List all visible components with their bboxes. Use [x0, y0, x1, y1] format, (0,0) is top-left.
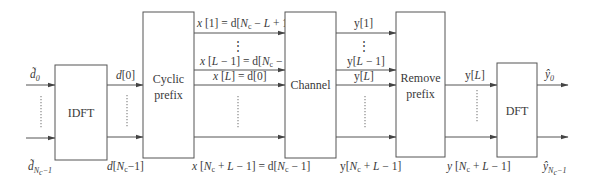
channel-block-label: Channel [291, 78, 332, 92]
ch-out-bottom-label: y[Nc + L − 1] [340, 160, 401, 174]
ch-ellipsis-top: ⋮ [358, 40, 370, 52]
remove-prefix-label-line2: prefix [406, 87, 435, 101]
cyclic-prefix-label-line1: Cyclic [153, 72, 184, 86]
cp-out-2-label: x [L − 1] = d[Nc − 1] [199, 55, 295, 69]
remove-prefix-label-line1: Remove [401, 71, 441, 85]
ch-out-3-label: y[L] [354, 70, 374, 83]
idft-block-label: IDFT [68, 106, 95, 120]
rp-out-bottom-label: y [Nc + L − 1] [446, 160, 511, 174]
rp-out-top-label: y[L] [465, 69, 485, 82]
cyclic-prefix-label-line2: prefix [154, 88, 183, 102]
cp-out-1-label: x [1] = d[Nc − L + 1] [196, 17, 292, 31]
input-bottom-label: d̃Nc−1 [28, 159, 52, 177]
dft-block-label: DFT [506, 104, 529, 118]
ofdm-block-diagram: d̃0 d̃Nc−1 IDFT d[0] d[Nc−1] Cyclic pref… [0, 0, 593, 182]
cp-ellipsis-top: ⋮ [232, 40, 244, 52]
output-top-label: ŷ0 [544, 68, 554, 83]
cp-out-bottom-label: x [Nc + L − 1] = d[Nc − 1] [191, 160, 310, 174]
idft-out-bottom-label: d[Nc−1] [107, 160, 144, 174]
idft-out-top-label: d[0] [116, 69, 135, 81]
output-bottom-label: ŷNc−1 [542, 160, 566, 177]
ch-out-1-label: y[1] [354, 17, 373, 30]
cp-out-3-label: x [L] = d[0] [212, 70, 266, 82]
ch-out-2-label: y[L − 1] [347, 55, 385, 68]
input-top-label: d̃0 [30, 67, 40, 83]
